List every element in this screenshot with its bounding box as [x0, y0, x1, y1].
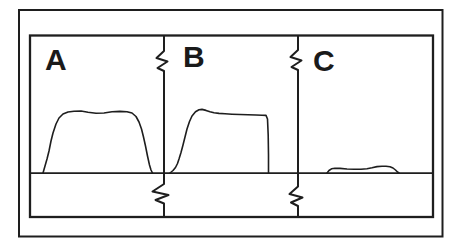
- panel-label-a: A: [45, 43, 67, 76]
- panel-label-b: B: [183, 40, 205, 73]
- three-panel-trace-figure: A B C: [0, 0, 460, 250]
- figure-background: [0, 0, 460, 250]
- figure-canvas: A B C: [0, 0, 460, 250]
- panel-label-c: C: [313, 44, 335, 77]
